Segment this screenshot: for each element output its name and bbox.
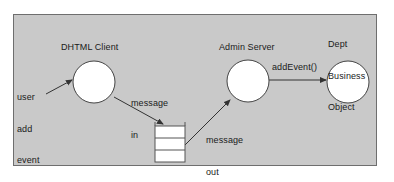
node-label-admin-server: Admin Server [219, 42, 275, 53]
edge-label-message-in: message in [131, 77, 168, 161]
edge-label-message-out-line-2: out [206, 167, 243, 178]
node-label-dept-line-2: Business [328, 71, 365, 82]
edge-label-add-event-call: addEvent() [272, 62, 317, 73]
edge-label-user-line-1: user [17, 92, 40, 103]
edge-label-user-line-3: event [17, 155, 40, 166]
edge-user-add-event [46, 80, 72, 94]
node-label-dept-business-object: Dept Business Object [328, 18, 365, 134]
node-label-dept-line-3: Object [328, 102, 365, 113]
edge-label-message-in-line-1: message [131, 98, 168, 109]
edge-label-message-in-line-2: in [131, 130, 168, 141]
node-admin-server[interactable] [227, 60, 269, 102]
node-label-dhtml-client: DHTML Client [61, 42, 118, 53]
node-dhtml-client[interactable] [73, 61, 115, 103]
edge-label-user-line-2: add [17, 124, 40, 135]
diagram-page: DHTML Client Admin Server Dept Business … [0, 0, 394, 182]
edge-label-user-add-event: user add event [17, 71, 40, 182]
edge-label-message-out-line-1: message [206, 135, 243, 146]
edge-label-message-out: message out [206, 114, 243, 182]
node-label-dept-line-1: Dept [328, 39, 365, 50]
